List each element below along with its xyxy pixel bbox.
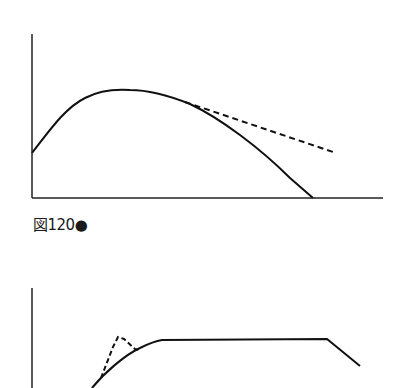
chart-1-dashed-curve <box>185 102 336 153</box>
chart-2-solid-curve <box>92 339 360 388</box>
chart-1-solid-curve <box>32 90 313 198</box>
chart-1 <box>32 34 383 198</box>
figure-caption: 図120● <box>33 213 87 234</box>
figure-canvas <box>0 0 396 388</box>
chart-2 <box>32 288 360 388</box>
